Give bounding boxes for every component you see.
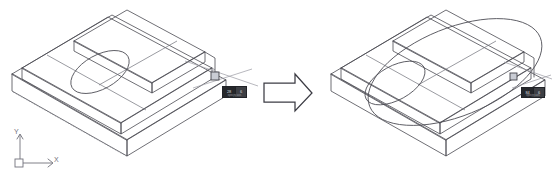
- ucs-y-label: Y: [14, 128, 19, 135]
- ucs-axis-indicator: Y X: [14, 128, 59, 167]
- left-block-assembly[interactable]: [12, 10, 258, 157]
- left-crosshair-ray-a: [185, 61, 258, 86]
- left-ellipse-small[interactable]: [64, 42, 136, 103]
- ucs-origin-box: [15, 159, 23, 167]
- cad-illustration-stage: Y X 28 6 Specify axis endpoint 84 6 Spec…: [0, 0, 558, 181]
- left-base-front-right-face: [127, 80, 226, 156]
- transform-arrow-icon: [264, 74, 312, 111]
- left-tail-lower-edge: [212, 68, 215, 70]
- left-grip-marker[interactable]: [211, 72, 219, 80]
- left-step-mid-riser-right: [121, 68, 212, 134]
- left-step-upper-top-face: [74, 10, 205, 83]
- right-block-assembly[interactable]: [331, 0, 557, 156]
- cad-drawing-canvas: Y X: [0, 0, 558, 181]
- left-tooltip-hint: Specify axis endpoint: [223, 94, 246, 97]
- right-top-division-line-b: [418, 41, 496, 85]
- right-step-mid-riser-left: [341, 68, 440, 134]
- right-dynamic-input-tooltip[interactable]: 84 6 Specify axis endpoint: [521, 87, 545, 98]
- left-step-upper-riser-left: [74, 41, 152, 93]
- left-step-mid-top-face: [22, 15, 212, 123]
- left-dynamic-input-tooltip[interactable]: 28 6 Specify axis endpoint: [222, 86, 247, 98]
- right-tooltip-hint: Specify axis endpoint: [522, 94, 544, 97]
- left-top-division-line-b: [99, 41, 177, 85]
- ucs-x-label: X: [54, 156, 59, 163]
- right-base-front-left-face: [331, 74, 446, 156]
- right-step-upper-top-face: [393, 10, 524, 83]
- right-grip-marker[interactable]: [510, 73, 517, 80]
